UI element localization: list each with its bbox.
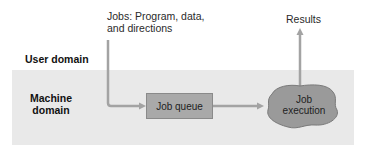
job-queue-box: Job queue — [146, 93, 213, 119]
job-execution-label-line1: Job — [276, 94, 332, 105]
input-arrow — [108, 40, 142, 106]
results-arrowhead-icon — [297, 28, 304, 35]
queue-arrowhead-icon — [257, 103, 264, 110]
job-queue-label: Job queue — [156, 101, 203, 112]
diagram-arrows — [0, 0, 365, 151]
job-execution-label: Job execution — [276, 94, 332, 116]
job-execution-label-line2: execution — [276, 105, 332, 116]
input-arrowhead-icon — [139, 103, 146, 110]
